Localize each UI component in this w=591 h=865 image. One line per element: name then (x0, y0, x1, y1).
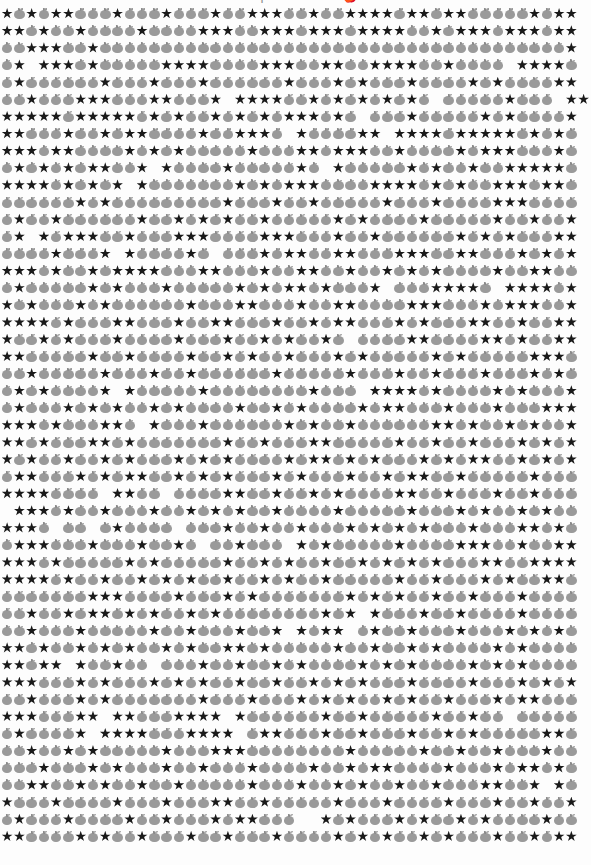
star-icon (87, 348, 99, 365)
blank-cell (357, 382, 369, 399)
apple-icon (430, 519, 442, 536)
star-icon-shape (222, 591, 233, 602)
apple-icon-shape (468, 505, 479, 516)
apple-icon (344, 125, 356, 142)
apple-body (419, 421, 430, 430)
apple-icon (418, 502, 430, 519)
apple-body (88, 473, 99, 482)
apple-icon-shape (370, 797, 381, 808)
star-icon (111, 314, 123, 331)
blank-cell (295, 811, 307, 828)
apple-icon-shape (296, 317, 307, 328)
apple-body (456, 267, 467, 276)
apple-body (247, 610, 258, 619)
apple-icon (332, 691, 344, 708)
apple-icon-shape (480, 248, 491, 259)
star-icon (406, 485, 418, 502)
apple-body (247, 576, 258, 585)
apple-icon (394, 91, 406, 108)
apple-body (75, 353, 86, 362)
star-icon (185, 708, 197, 725)
apple-icon-shape (125, 505, 136, 516)
apple-body (247, 164, 258, 173)
star-icon (246, 142, 258, 159)
apple-icon-shape (88, 385, 99, 396)
apple-icon (111, 571, 123, 588)
star-icon (565, 22, 577, 39)
apple-icon (197, 176, 209, 193)
apple-icon (418, 262, 430, 279)
apple-icon-shape (88, 248, 99, 259)
apple-body (174, 747, 185, 756)
star-icon-shape (112, 111, 123, 122)
apple-icon-shape (505, 694, 516, 705)
apple-icon-shape (443, 197, 454, 208)
star-icon (406, 245, 418, 262)
apple-leaf (167, 26, 170, 28)
star-icon-shape (480, 574, 491, 585)
apple-icon (50, 194, 62, 211)
apple-leaf (253, 506, 256, 508)
apple-body (284, 370, 295, 379)
apple-body (493, 233, 504, 242)
star-icon (406, 656, 418, 673)
star-icon (185, 828, 197, 845)
apple-body (407, 233, 418, 242)
apple-icon (234, 691, 246, 708)
star-icon-shape (210, 8, 221, 19)
apple-icon (271, 571, 283, 588)
apple-icon (308, 639, 320, 656)
star-icon-shape (468, 128, 479, 139)
apple-icon-shape (198, 505, 209, 516)
star-icon-shape (468, 419, 479, 430)
apple-body (198, 610, 209, 619)
apple-body (235, 199, 246, 208)
apple-body (186, 404, 197, 413)
apple-icon-shape (358, 368, 369, 379)
glyph-row (1, 22, 591, 39)
star-icon (26, 536, 38, 553)
star-icon-shape (357, 351, 368, 362)
star-icon (222, 588, 234, 605)
apple-icon (381, 108, 393, 125)
apple-body (137, 370, 148, 379)
apple-body (223, 44, 234, 53)
star-icon (394, 571, 406, 588)
apple-icon-shape (382, 334, 393, 345)
apple-icon-shape (112, 77, 123, 88)
apple-icon (553, 673, 565, 690)
apple-body (26, 130, 37, 139)
star-icon-shape (259, 94, 270, 105)
apple-icon (516, 571, 528, 588)
apple-icon (528, 228, 540, 245)
apple-icon (308, 74, 320, 91)
apple-leaf (461, 557, 464, 559)
apple-icon-shape (493, 677, 504, 688)
apple-body (100, 27, 111, 36)
apple-body (321, 747, 332, 756)
apple-icon-shape (321, 179, 332, 190)
apple-leaf (253, 403, 256, 405)
apple-leaf (474, 746, 477, 748)
star-icon (332, 296, 344, 313)
blank-cell (577, 708, 589, 725)
apple-icon-shape (210, 351, 221, 362)
apple-body (63, 439, 74, 448)
apple-body (566, 181, 577, 190)
apple-body (358, 61, 369, 70)
star-icon-shape (63, 128, 74, 139)
apple-icon (344, 828, 356, 845)
apple-icon-shape (394, 214, 405, 225)
apple-icon (271, 245, 283, 262)
apple-body (210, 696, 221, 705)
star-icon-shape (271, 8, 282, 19)
star-icon (26, 468, 38, 485)
star-icon (344, 451, 356, 468)
apple-icon (528, 536, 540, 553)
apple-icon-shape (2, 197, 13, 208)
glyph-row (1, 502, 591, 519)
star-icon (160, 571, 172, 588)
apple-icon-shape (161, 608, 172, 619)
apple-icon (443, 39, 455, 56)
star-icon-shape (333, 677, 344, 688)
